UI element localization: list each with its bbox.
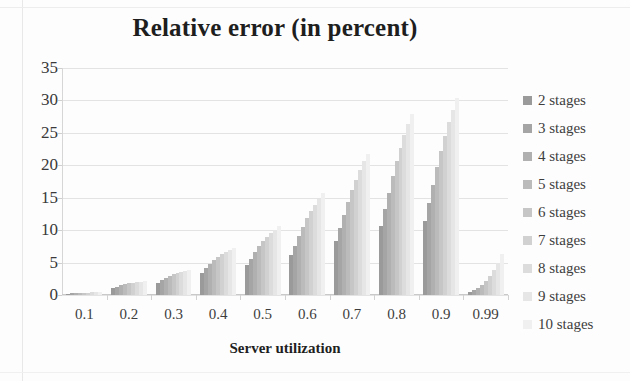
bar[interactable]	[321, 193, 325, 295]
bar[interactable]	[277, 226, 281, 295]
bar-cluster	[334, 68, 370, 295]
scan-edge-bottom	[0, 372, 630, 373]
y-axis-tick-label: 15	[18, 188, 58, 208]
x-axis-tick-label: 0.99	[473, 306, 499, 323]
bar-cluster	[66, 68, 102, 295]
bar[interactable]	[232, 248, 236, 295]
x-axis-tick-mark	[107, 295, 108, 300]
legend-swatch-icon	[523, 236, 532, 245]
legend-swatch-icon	[523, 292, 532, 301]
legend-item[interactable]: 5 stages	[523, 170, 628, 198]
x-axis-tick-mark	[330, 295, 331, 300]
bar-cluster	[289, 68, 325, 295]
x-axis-tick-mark	[240, 295, 241, 300]
x-axis-tick-mark	[196, 295, 197, 300]
bar[interactable]	[500, 254, 504, 295]
bar-cluster	[379, 68, 415, 295]
bar[interactable]	[187, 270, 191, 295]
y-axis-tick-label: 30	[18, 90, 58, 110]
legend-item[interactable]: 7 stages	[523, 226, 628, 254]
x-axis-tick-label: 0.8	[387, 306, 406, 323]
legend-swatch-icon	[523, 320, 532, 329]
scan-edge-top	[0, 7, 630, 8]
legend-label: 6 stages	[538, 204, 586, 221]
x-axis-tick-label: 0.4	[209, 306, 228, 323]
chart-legend: 2 stages3 stages4 stages5 stages6 stages…	[523, 86, 628, 338]
x-axis-tick-label: 0.2	[120, 306, 139, 323]
bar[interactable]	[143, 281, 147, 295]
y-axis-tick-label: 35	[18, 58, 58, 78]
y-axis-tick-label: 10	[18, 220, 58, 240]
x-axis-tick-mark	[285, 295, 286, 300]
bar-cluster	[156, 68, 192, 295]
bar-cluster	[468, 68, 504, 295]
x-axis-title: Server utilization	[62, 340, 508, 357]
x-axis-tick-mark	[463, 295, 464, 300]
bar-cluster	[200, 68, 236, 295]
legend-label: 4 stages	[538, 148, 586, 165]
bar[interactable]	[410, 114, 414, 295]
y-axis-line	[62, 68, 63, 295]
legend-item[interactable]: 3 stages	[523, 114, 628, 142]
chart-title: Relative error (in percent)	[0, 14, 630, 42]
y-axis-tick-label: 25	[18, 123, 58, 143]
legend-label: 5 stages	[538, 176, 586, 193]
y-axis-tick-mark	[58, 295, 62, 296]
legend-item[interactable]: 6 stages	[523, 198, 628, 226]
bar-cluster	[423, 68, 459, 295]
x-axis-tick-label: 0.5	[253, 306, 272, 323]
plot-area	[62, 68, 508, 295]
legend-swatch-icon	[523, 124, 532, 133]
x-axis-tick-label: 0.1	[75, 306, 94, 323]
legend-swatch-icon	[523, 96, 532, 105]
x-axis-tick-mark	[508, 295, 509, 300]
x-axis-tick-label: 0.3	[164, 306, 183, 323]
y-axis-tick-label: 5	[18, 253, 58, 273]
bar[interactable]	[366, 154, 370, 295]
x-axis-tick-label: 0.9	[432, 306, 451, 323]
bar-cluster	[245, 68, 281, 295]
legend-swatch-icon	[523, 264, 532, 273]
legend-item[interactable]: 4 stages	[523, 142, 628, 170]
legend-swatch-icon	[523, 152, 532, 161]
legend-swatch-icon	[523, 180, 532, 189]
legend-item[interactable]: 8 stages	[523, 254, 628, 282]
legend-item[interactable]: 10 stages	[523, 310, 628, 338]
legend-label: 3 stages	[538, 120, 586, 137]
legend-label: 8 stages	[538, 260, 586, 277]
x-axis-tick-mark	[419, 295, 420, 300]
legend-label: 7 stages	[538, 232, 586, 249]
y-axis-tick-label: 0	[18, 285, 58, 305]
x-axis-tick-label: 0.6	[298, 306, 317, 323]
legend-item[interactable]: 9 stages	[523, 282, 628, 310]
bar-cluster	[111, 68, 147, 295]
legend-label: 2 stages	[538, 92, 586, 109]
bar[interactable]	[98, 292, 102, 295]
y-axis-tick-label: 20	[18, 155, 58, 175]
x-axis-tick-label: 0.7	[343, 306, 362, 323]
x-axis-tick-mark	[151, 295, 152, 300]
legend-label: 9 stages	[538, 288, 586, 305]
x-axis-tick-mark	[374, 295, 375, 300]
chart-container: Relative error (in percent) 051015202530…	[0, 0, 630, 381]
legend-item[interactable]: 2 stages	[523, 86, 628, 114]
legend-label: 10 stages	[538, 316, 593, 333]
legend-swatch-icon	[523, 208, 532, 217]
bar[interactable]	[455, 98, 459, 295]
